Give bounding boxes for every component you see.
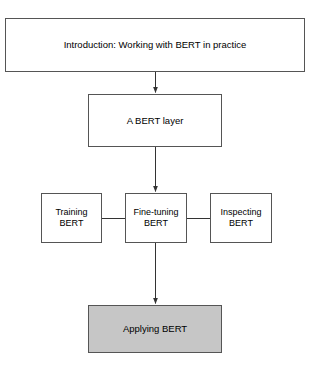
node-bert-layer: A BERT layer	[88, 94, 222, 147]
node-fine-tuning-bert-label: Fine-tuning BERT	[133, 207, 178, 230]
node-training-bert-label: Training BERT	[55, 207, 87, 230]
node-inspecting-bert-label: Inspecting BERT	[220, 207, 261, 230]
node-inspecting-bert: Inspecting BERT	[210, 193, 272, 243]
diagram-canvas: Introduction: Working with BERT in pract…	[0, 0, 311, 376]
node-bert-layer-label: A BERT layer	[127, 115, 184, 127]
node-applying-bert: Applying BERT	[88, 305, 222, 353]
node-introduction-label: Introduction: Working with BERT in pract…	[64, 39, 247, 51]
node-training-bert: Training BERT	[41, 193, 102, 243]
node-applying-bert-label: Applying BERT	[123, 323, 187, 335]
node-introduction: Introduction: Working with BERT in pract…	[5, 18, 305, 72]
node-fine-tuning-bert: Fine-tuning BERT	[125, 193, 187, 243]
